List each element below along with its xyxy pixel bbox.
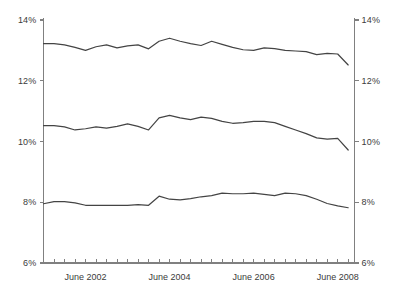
y-axis-right-tick-2: 10% [362,137,381,147]
y-axis-left-tick-1: 12% [2,76,37,86]
x-axis-tick-3: June 2008 [303,272,373,282]
chart-series-lines [44,38,349,208]
y-axis-right-tick-1: 12% [362,76,381,86]
x-axis-tick-2: June 2006 [219,272,289,282]
y-axis-left-tick-2: 10% [2,137,37,147]
chart-plot-area [0,0,398,296]
chart-axes [40,18,359,263]
y-axis-left-tick-3: 8% [2,197,37,207]
y-axis-right-tick-4: 6% [362,258,375,268]
x-axis-tick-0: June 2002 [51,272,121,282]
series-line-series-top [44,38,349,65]
y-axis-left-tick-0: 14% [2,15,37,25]
line-chart: 14%12%10%8%6% 14%12%10%8%6% June 2002Jun… [0,0,398,296]
y-axis-right-tick-0: 14% [362,15,381,25]
y-axis-right-tick-3: 8% [362,197,375,207]
y-axis-left-tick-4: 6% [2,258,37,268]
series-line-series-middle [44,115,349,150]
series-line-series-bottom [44,193,349,208]
x-axis-tick-1: June 2004 [135,272,205,282]
